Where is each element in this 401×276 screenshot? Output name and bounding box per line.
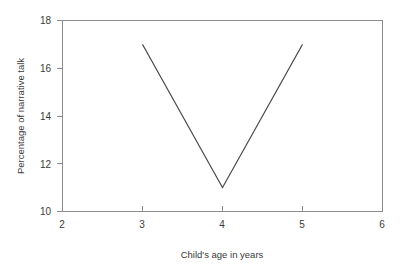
chart-container: 2 3 4 5 6 10 12 14 16 18 Child's age in … (0, 0, 401, 276)
x-tick-label-6: 6 (379, 219, 385, 230)
x-tick-label-2: 2 (59, 219, 65, 230)
y-tick-label-18: 18 (40, 15, 52, 26)
y-tick-label-14: 14 (40, 111, 52, 122)
x-axis-title: Child's age in years (181, 249, 264, 260)
y-tick-label-16: 16 (40, 63, 52, 74)
y-tick-label-12: 12 (40, 159, 52, 170)
x-tick-label-5: 5 (299, 219, 305, 230)
y-axis-title: Percentage of narrative talk (15, 58, 26, 174)
y-tick-label-10: 10 (40, 206, 52, 217)
x-tick-label-4: 4 (219, 219, 225, 230)
x-tick-label-3: 3 (139, 219, 145, 230)
chart-background (0, 0, 401, 276)
line-chart: 2 3 4 5 6 10 12 14 16 18 Child's age in … (0, 0, 401, 276)
